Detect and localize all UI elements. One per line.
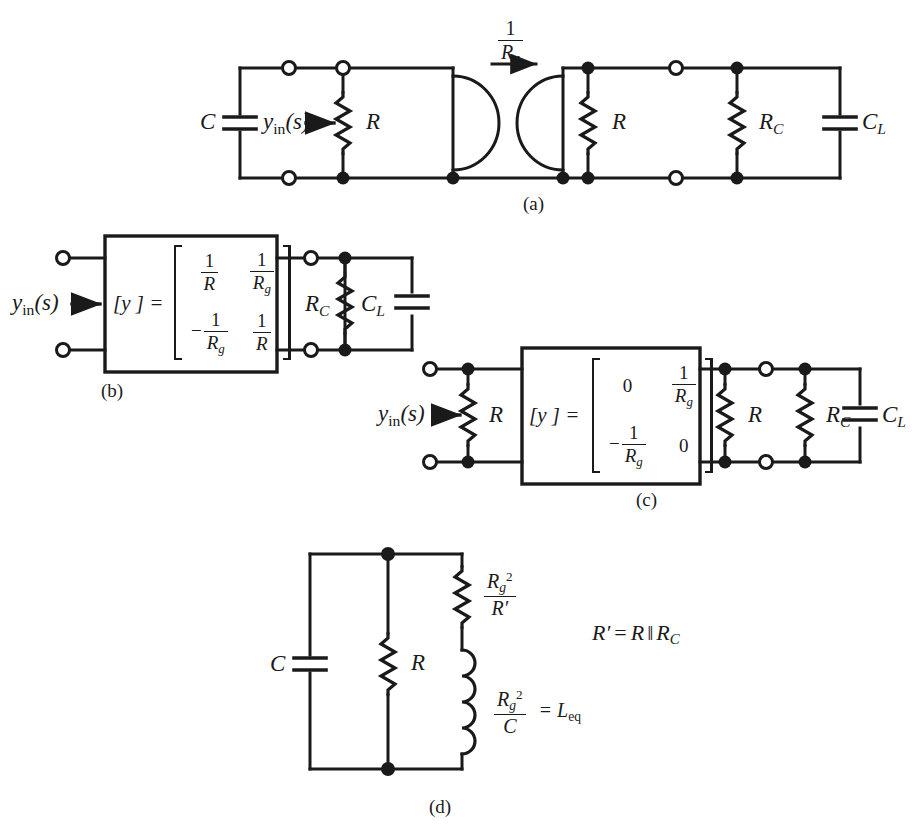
matrix-grid: 1R 1Rg −1Rg 1R	[183, 245, 282, 360]
yin-sub: in	[273, 120, 285, 137]
panel-b-rc-label: RC	[305, 292, 329, 318]
matrix-cell-1-1: 0	[679, 435, 689, 457]
panel-d-res-eq-label: Rg2 R′	[484, 570, 516, 620]
circuit-figure: C yin(s) R 1 Rg R RC CL (a) yin(s) [y ] …	[0, 0, 918, 834]
panel-c-y-matrix: 0 1Rg −1Rg 0	[592, 358, 713, 473]
note-eq: =	[614, 620, 626, 645]
panel-b-cl-label: CL	[361, 292, 385, 318]
matrix-bracket-right	[282, 245, 291, 360]
matrix-cell-0-1: 1Rg	[250, 250, 274, 296]
panel-a-gyrator-gain-label: 1 Rg	[498, 18, 523, 67]
gyrator-gain-denominator: Rg	[498, 41, 523, 66]
panel-d-network	[294, 554, 475, 769]
panel-a-nodes	[337, 62, 744, 185]
matrix-cell-0-1: 1Rg	[672, 363, 696, 409]
res-eq-denominator: R′	[484, 597, 516, 619]
matrix-cell-1-0: −1Rg	[191, 310, 228, 356]
note-rc-sub: C	[670, 631, 680, 647]
panel-a-res-left-label: R	[366, 110, 380, 133]
matrix-cell-0-0: 1R	[201, 251, 219, 294]
panel-b-block-label: [y ] =	[113, 293, 163, 314]
panel-c-res-right-label: R	[748, 403, 762, 426]
panel-b-yin-label: yin(s)	[12, 291, 59, 317]
matrix-cell-1-1: 1R	[253, 311, 271, 354]
panel-a-yin-label: yin(s)	[263, 110, 310, 136]
panel-a-res-right-label: R	[612, 110, 626, 133]
panel-c-caption: (c)	[636, 490, 657, 509]
ind-eq-numerator: Rg2	[494, 688, 526, 715]
panel-a-top-terminals	[337, 62, 350, 75]
panel-a-right-network	[453, 68, 856, 178]
panel-b-caption: (b)	[101, 381, 123, 400]
panel-a-left-network	[224, 68, 453, 178]
matrix-cell-0-0: 0	[623, 375, 633, 397]
ind-eq-denominator: C	[494, 715, 526, 737]
yin-y: y	[263, 109, 273, 134]
panel-d-ind-eq-label: Rg2 C = Leq	[494, 688, 581, 738]
note-rc: R	[656, 620, 669, 645]
ind-eq-rhs: = Leq	[539, 699, 581, 721]
panel-b-y-matrix: 1R 1Rg −1Rg 1R	[174, 245, 291, 360]
panel-a-rc-label: RC	[759, 110, 783, 136]
panel-d-res-label: R	[411, 651, 425, 674]
gyrator-gain-fraction: 1 Rg	[498, 18, 523, 67]
gyrator-left-half	[453, 68, 499, 178]
note-parallel-symbol: ‖	[647, 620, 653, 645]
res-eq-numerator: Rg2	[484, 570, 516, 597]
panel-c-cl-label: CL	[882, 403, 906, 429]
yin-arg: (s)	[285, 109, 309, 134]
gyrator-gain-numerator: 1	[498, 18, 523, 41]
panel-a-caption: (a)	[523, 194, 544, 213]
gyrator-right-half	[517, 68, 563, 178]
panel-c-rc-label: RC	[826, 403, 850, 429]
panel-c-block-label: [y ] =	[529, 405, 579, 426]
panel-d-caption: (d)	[429, 797, 451, 816]
matrix-bracket-left	[174, 245, 183, 360]
matrix-bracket-left	[592, 358, 601, 473]
matrix-bracket-right	[704, 358, 713, 473]
panel-a-cap-label: C	[200, 110, 215, 133]
res-eq-fraction: Rg2 R′	[484, 570, 516, 620]
note-r: R	[631, 620, 644, 645]
panel-c-res-in-label: R	[489, 403, 503, 426]
panel-a-cl-label: CL	[862, 110, 886, 136]
matrix-grid: 0 1Rg −1Rg 0	[601, 358, 704, 473]
panel-d-note: R′=R‖RC	[592, 622, 680, 647]
note-lhs: R′	[592, 620, 610, 645]
matrix-cell-1-0: −1Rg	[609, 423, 646, 469]
ind-eq-fraction: Rg2 C	[494, 688, 526, 738]
panel-c-yin-label: yin(s)	[378, 402, 425, 428]
panel-d-cap-label: C	[270, 652, 285, 675]
